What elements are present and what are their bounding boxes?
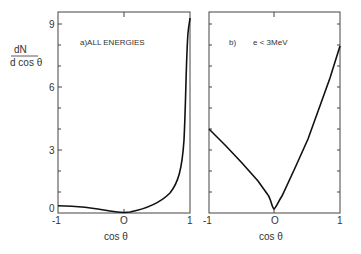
y-tick-9: 9: [49, 19, 55, 30]
panel-a: 9 6 3 0 -1 O 1 cos θ a)ALL ENERGIES: [49, 12, 193, 242]
panel-b-x-tick-minus1: -1: [203, 215, 212, 226]
panel-b-x-axis-label: cos θ: [259, 231, 283, 242]
figure: dN d cos θ 9 6 3 0 -1 O 1 cos θ a)ALL EN…: [0, 0, 361, 254]
panel-a-x-tick-minus1: -1: [52, 215, 61, 226]
panel-a-annotation: a)ALL ENERGIES: [80, 38, 145, 47]
panel-a-x-axis-label: cos θ: [104, 231, 128, 242]
panel-a-x-tick-0: O: [120, 215, 128, 226]
y-tick-0: 0: [49, 203, 55, 214]
y-axis-label-bottom: d cos θ: [10, 57, 43, 68]
panel-b-annotation-letter: b): [229, 38, 236, 47]
panel-b-curve: [209, 46, 340, 209]
panel-b-x-tick-0: O: [271, 215, 279, 226]
panel-a-x-tick-1: 1: [187, 215, 193, 226]
panel-b: -1 O 1 cos θ b) e < 3MeV: [203, 12, 343, 242]
y-tick-6: 6: [49, 82, 55, 93]
y-axis-label-top: dN: [14, 44, 27, 55]
panel-a-curve: [58, 18, 190, 213]
panel-b-annotation-text: e < 3MeV: [253, 38, 288, 47]
y-tick-3: 3: [49, 145, 55, 156]
panel-b-x-tick-1: 1: [337, 215, 343, 226]
